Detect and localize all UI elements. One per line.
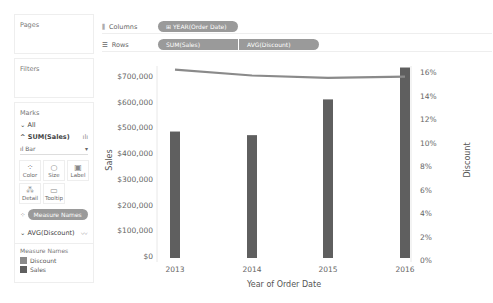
- svg-text:$500,000: $500,000: [117, 123, 153, 132]
- svg-text:10%: 10%: [420, 139, 437, 148]
- svg-text:2013: 2013: [165, 265, 184, 274]
- bars: [170, 68, 410, 258]
- y2-axis-title: Discount: [463, 142, 472, 177]
- svg-text:$100,000: $100,000: [117, 226, 153, 235]
- svg-text:4%: 4%: [420, 209, 432, 218]
- y-axis-left: $0$100,000$200,000$300,000$400,000$500,0…: [117, 72, 153, 261]
- svg-text:2014: 2014: [242, 265, 261, 274]
- x-axis: 2013201420152016: [165, 265, 414, 274]
- svg-text:$200,000: $200,000: [117, 201, 153, 210]
- svg-text:2016: 2016: [395, 265, 414, 274]
- svg-text:$700,000: $700,000: [117, 72, 153, 81]
- y-axis-right: 0%2%4%6%8%10%12%14%16%: [420, 68, 437, 265]
- svg-text:12%: 12%: [420, 115, 437, 124]
- svg-text:$400,000: $400,000: [117, 149, 153, 158]
- y-axis-title: Sales: [105, 149, 114, 170]
- svg-text:$600,000: $600,000: [117, 98, 153, 107]
- svg-text:$300,000: $300,000: [117, 175, 153, 184]
- svg-text:0%: 0%: [420, 256, 432, 265]
- svg-text:2%: 2%: [420, 233, 432, 242]
- svg-text:2015: 2015: [318, 265, 337, 274]
- svg-text:$0: $0: [143, 252, 153, 261]
- svg-text:16%: 16%: [420, 68, 437, 77]
- svg-text:6%: 6%: [420, 186, 432, 195]
- svg-text:8%: 8%: [420, 162, 432, 171]
- chart: $0$100,000$200,000$300,000$400,000$500,0…: [0, 0, 493, 303]
- svg-text:14%: 14%: [420, 92, 437, 101]
- discount-line: [175, 70, 405, 78]
- x-axis-title: Year of Order Date: [246, 280, 321, 289]
